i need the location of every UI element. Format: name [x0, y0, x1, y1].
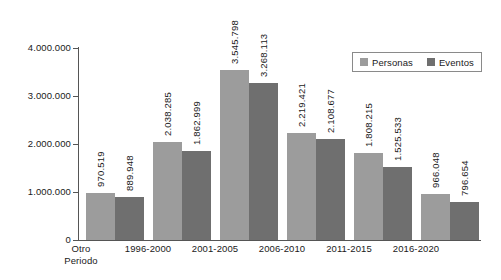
bar-personas[interactable]: 2.219.421	[287, 133, 316, 240]
legend-label: Eventos	[439, 57, 474, 68]
y-axis-tick-label: 2.000.000	[3, 138, 71, 149]
bar-eventos[interactable]: 1.525.533	[383, 167, 412, 240]
legend-item-personas[interactable]: Personas	[360, 57, 413, 68]
bar-personas[interactable]: 1.808.215	[354, 153, 383, 240]
bar-group: 970.519 889.948	[81, 48, 149, 240]
x-axis-category-label: 2016-2020	[368, 243, 464, 255]
bar-value-label: 2.038.285	[162, 92, 173, 136]
bar-value-label: 1.525.533	[392, 117, 403, 161]
y-axis-tick-label: 1.000.000	[3, 186, 71, 197]
bar-group: 2.038.285 1.862.999	[148, 48, 216, 240]
category-line-1: 2016-2020	[368, 243, 464, 255]
chart-legend: Personas Eventos	[352, 52, 482, 72]
bar-value-label: 2.108.677	[325, 89, 336, 133]
bar-value-label: 889.948	[124, 156, 135, 192]
x-axis-line	[78, 240, 481, 241]
category-line-2: Periodo	[33, 255, 129, 267]
bar-personas[interactable]: 970.519	[86, 193, 115, 240]
bar-eventos[interactable]: 3.268.113	[249, 83, 278, 240]
legend-swatch-icon	[360, 58, 368, 66]
bar-personas[interactable]: 2.038.285	[153, 142, 182, 240]
legend-swatch-icon	[427, 58, 435, 66]
bar-value-label: 1.862.999	[191, 101, 202, 145]
bar-eventos[interactable]: 889.948	[115, 197, 144, 240]
bar-personas[interactable]: 3.545.798	[220, 70, 249, 240]
legend-item-eventos[interactable]: Eventos	[427, 57, 474, 68]
bar-value-label: 1.808.215	[363, 103, 374, 147]
legend-label: Personas	[372, 57, 413, 68]
y-axis-tick-label: 4.000.000	[3, 42, 71, 53]
bar-eventos[interactable]: 1.862.999	[182, 151, 211, 240]
bar-group: 2.219.421 2.108.677	[282, 48, 350, 240]
bar-value-label: 3.545.798	[229, 20, 240, 64]
bar-eventos[interactable]: 2.108.677	[316, 139, 345, 240]
bar-chart: 4.000.000 3.000.000 2.000.000 1.000.000 …	[0, 0, 501, 280]
bar-eventos[interactable]: 796.654	[450, 202, 479, 240]
bar-value-label: 2.219.421	[296, 83, 307, 127]
bar-group: 3.545.798 3.268.113	[215, 48, 283, 240]
plot-area: 970.519 889.948 2.038.285 1.862.999 3.54…	[79, 48, 481, 240]
bar-value-label: 796.654	[459, 160, 470, 196]
bar-value-label: 970.519	[95, 152, 106, 188]
bar-value-label: 966.048	[430, 152, 441, 188]
bar-group: 1.808.215 1.525.533	[349, 48, 417, 240]
bar-value-label: 3.268.113	[258, 34, 269, 77]
bar-personas[interactable]: 966.048	[421, 194, 450, 240]
bar-group: 966.048 796.654	[416, 48, 484, 240]
y-axis-tick-label: 3.000.000	[3, 90, 71, 101]
